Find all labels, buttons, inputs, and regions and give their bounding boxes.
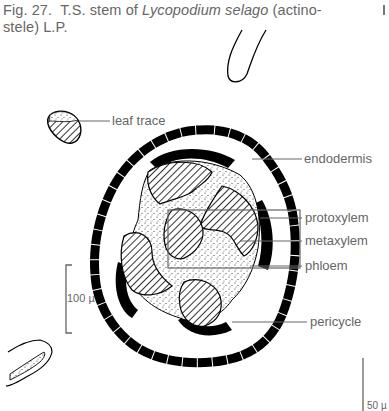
scale-label-100: 100 µ [67, 292, 95, 304]
leaf-trace-shape [48, 111, 81, 143]
label-leaf-trace: leaf trace [112, 113, 165, 128]
label-endodermis: endodermis [304, 151, 372, 166]
label-metaxylem: metaxylem [305, 233, 368, 248]
label-pericycle: pericycle [310, 314, 361, 329]
leaf-outline-bottom [6, 340, 52, 386]
label-phloem: phloem [305, 258, 348, 273]
leaf-outline-top [228, 30, 266, 82]
scale-label-50: 50 µ [367, 400, 387, 411]
label-protoxylem: protoxylem [305, 210, 369, 225]
stem-cross-section-diagram [0, 0, 389, 411]
